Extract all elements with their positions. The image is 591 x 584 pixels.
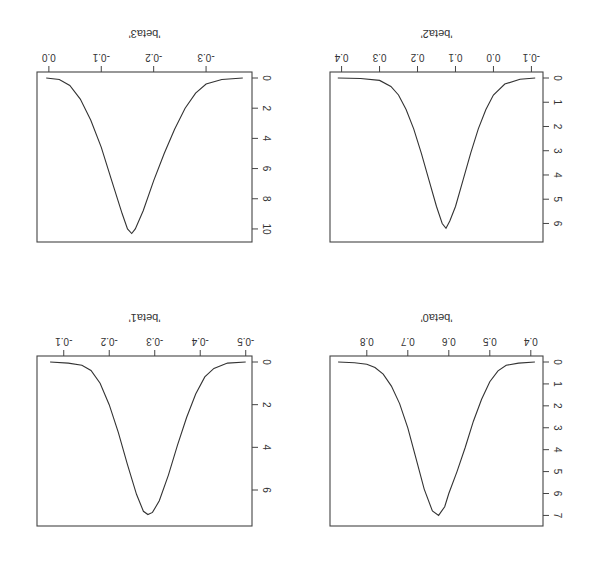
x-tick-label: -0.1 — [92, 52, 110, 63]
density-curve — [46, 78, 243, 234]
x-tick-label: -0.5 — [237, 336, 255, 347]
y-tick-label: 2 — [552, 124, 563, 130]
panel-beta3: -0.3-0.2-0.10.00246810'beta3' — [37, 28, 272, 242]
x-tick-label: 0.0 — [486, 52, 500, 63]
y-tick-label: 0 — [552, 359, 563, 365]
x-axis-label: 'beta3' — [129, 28, 161, 40]
y-tick-label: 10 — [261, 223, 272, 235]
x-tick-label: 0.0 — [41, 52, 55, 63]
y-tick-label: 4 — [261, 445, 272, 451]
y-tick-label: 4 — [261, 136, 272, 142]
y-tick-label: 0 — [261, 75, 272, 81]
plot-frame — [37, 356, 252, 526]
x-tick-label: 0.7 — [400, 336, 414, 347]
panel-beta0: 0.40.50.60.70.801234567'beta0' — [330, 312, 563, 526]
y-tick-label: 6 — [552, 221, 563, 227]
x-tick-label: -0.3 — [146, 336, 164, 347]
plot-frame — [330, 72, 543, 242]
x-tick-label: 0.6 — [441, 336, 455, 347]
y-tick-label: 1 — [552, 381, 563, 387]
x-tick-label: -0.3 — [197, 52, 215, 63]
panel-beta1: -0.5-0.4-0.3-0.2-0.10246'beta1' — [37, 312, 272, 526]
y-tick-label: 2 — [552, 403, 563, 409]
x-tick-label: 0.4 — [523, 336, 537, 347]
x-tick-label: 0.8 — [359, 336, 373, 347]
y-tick-label: 6 — [261, 166, 272, 172]
y-tick-label: 5 — [552, 469, 563, 475]
y-tick-label: 5 — [552, 196, 563, 202]
density-curve — [50, 362, 246, 515]
y-tick-label: 0 — [552, 75, 563, 81]
y-tick-label: 8 — [261, 196, 272, 202]
x-tick-label: -0.1 — [55, 336, 73, 347]
panel-beta2: -0.10.00.10.20.30.40123456'beta2' — [330, 28, 563, 242]
x-tick-label: 0.4 — [334, 52, 348, 63]
y-tick-label: 1 — [552, 99, 563, 105]
density-curve — [338, 362, 535, 515]
y-tick-label: 4 — [552, 447, 563, 453]
y-tick-label: 7 — [552, 513, 563, 519]
y-tick-label: 3 — [552, 425, 563, 431]
y-tick-label: 2 — [261, 402, 272, 408]
y-tick-label: 0 — [261, 359, 272, 365]
figure-rotated: 0.40.50.60.70.801234567'beta0'-0.5-0.4-0… — [0, 0, 591, 584]
x-tick-label: 0.3 — [372, 52, 386, 63]
plot-frame — [37, 72, 252, 242]
posterior-density-grid: 0.40.50.60.70.801234567'beta0'-0.5-0.4-0… — [0, 0, 591, 584]
y-tick-label: 6 — [261, 487, 272, 493]
x-tick-label: 0.1 — [448, 52, 462, 63]
y-tick-label: 2 — [261, 105, 272, 111]
x-tick-label: -0.2 — [100, 336, 118, 347]
x-tick-label: -0.1 — [522, 52, 540, 63]
x-tick-label: 0.2 — [410, 52, 424, 63]
density-curve — [338, 78, 535, 228]
x-tick-label: -0.2 — [145, 52, 163, 63]
plot-frame — [330, 356, 543, 526]
x-axis-label: 'beta1' — [129, 312, 161, 324]
x-tick-label: -0.4 — [191, 336, 209, 347]
y-tick-label: 4 — [552, 172, 563, 178]
y-tick-label: 6 — [552, 491, 563, 497]
x-axis-label: 'beta2' — [421, 28, 453, 40]
y-tick-label: 3 — [552, 148, 563, 154]
x-tick-label: 0.5 — [482, 336, 496, 347]
x-axis-label: 'beta0' — [421, 312, 453, 324]
